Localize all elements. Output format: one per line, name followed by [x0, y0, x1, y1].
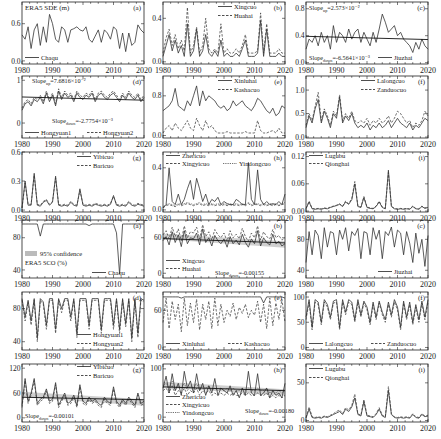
x-tick-label: 1980: [14, 280, 30, 289]
series-hongyuan1: [22, 299, 144, 338]
x-tick-label: 1990: [329, 280, 345, 289]
legend-label: Xingcuo: [234, 3, 256, 10]
series-baricuo: [22, 175, 144, 208]
legend-label: Kashacuo: [244, 340, 270, 347]
x-tick-label: 2010: [106, 66, 122, 75]
plot-frame: [306, 364, 428, 422]
y-tick-label: 60: [154, 233, 162, 242]
x-tick-label: 1990: [329, 424, 345, 433]
y-tick-label: 0.00: [291, 207, 304, 216]
y-tick-label: 0: [17, 413, 21, 422]
legend-label: Zanduocuo: [377, 86, 406, 93]
slope-annotation: Slopedown=-0.00180: [245, 407, 294, 416]
y-tick-label: 100: [150, 364, 162, 373]
x-tick-label: 2010: [106, 280, 122, 289]
series-lalongcuo: [306, 300, 428, 328]
y-tick-label: 0.8: [295, 4, 305, 13]
y-tick-label: 80: [13, 304, 21, 313]
panel-scd-a: 198019902000201020204080(a)Chaqu95% conf…: [13, 220, 152, 289]
x-tick-label: 1980: [298, 352, 314, 361]
x-tick-label: 2010: [106, 140, 122, 149]
y-tick-label: 60: [154, 306, 162, 315]
panel-sde-f: 198019902000201020200.00.51.0(f)Lalongcu…: [295, 76, 436, 149]
y-tick-label: 0.0: [295, 58, 305, 67]
x-tick-label: 2000: [359, 352, 375, 361]
y-tick-label: 1.0: [295, 86, 305, 95]
x-tick-label: 2020: [136, 280, 152, 289]
x-tick-label: 1990: [45, 424, 61, 433]
y-tick-label: 0: [158, 269, 162, 278]
x-tick-label: 2020: [277, 424, 293, 433]
legend-label: Zanduocuo: [387, 340, 416, 347]
y-tick-label: 0.5: [295, 109, 305, 118]
x-tick-label: 1990: [186, 66, 202, 75]
legend-label: Xinluhai: [234, 77, 257, 84]
y-tick-label: 100: [293, 293, 305, 302]
y-tick-label: 0.4: [152, 14, 162, 23]
panel-label: (f): [418, 78, 426, 86]
legend-label: Xinluhai: [182, 340, 205, 347]
panel-label: (d): [133, 294, 142, 302]
confidence-swatch: [25, 251, 37, 256]
y-tick-label: 0.0: [11, 57, 21, 66]
legend-label: Chaqu: [108, 269, 126, 276]
series-kashacuo: [163, 298, 285, 332]
x-tick-label: 1990: [45, 280, 61, 289]
x-tick-label: 2000: [216, 66, 232, 75]
series-jiuzhai: [306, 227, 428, 266]
y-tick-label: 40: [13, 266, 21, 275]
panel-label: (a): [133, 4, 141, 12]
x-tick-label: 2010: [390, 280, 406, 289]
panel-label: (b): [274, 4, 283, 12]
series-jiuzhai: [306, 14, 428, 52]
y-tick-label: 60: [13, 389, 21, 398]
series-qionghai: [306, 387, 428, 418]
series-qionghai: [306, 173, 428, 209]
x-tick-label: 1980: [298, 280, 314, 289]
y-tick-label: 120: [9, 364, 21, 373]
x-tick-label: 2020: [277, 352, 293, 361]
x-tick-label: 2000: [216, 424, 232, 433]
panel-label: (g): [133, 154, 142, 162]
panel-scd-f: 19801990200020102020050100(f)LalongcuoZa…: [293, 292, 436, 361]
x-tick-label: 2000: [359, 424, 375, 433]
y-tick-label: 0.0: [295, 133, 305, 142]
panel-sde-c: 198019902000201020200.00.40.8(c)JiuzhaiS…: [295, 2, 436, 75]
panel-label: (f): [418, 294, 426, 302]
x-tick-label: 2020: [420, 66, 436, 75]
legend-label: Baricuo: [93, 162, 114, 169]
panel-scd-d: 198019902000201020204080(d)Hongyuan1Hong…: [13, 292, 152, 361]
y-tick-label: 0.3: [11, 177, 21, 186]
series-hongyuan1: [22, 91, 144, 110]
legend-label: Hongyuan1: [41, 129, 71, 136]
legend-label: Hongyuan2: [93, 340, 123, 347]
x-tick-label: 2000: [75, 66, 91, 75]
legend-label: Jiuzhai: [394, 268, 413, 275]
legend-label: Xingyicuo: [182, 160, 209, 167]
panel-scd-b: 19801990200020102020060(b)XingcuoHuahaiS…: [154, 220, 293, 289]
slope-annotation: Slopedown=-0.00101: [25, 412, 74, 421]
series-kashacuo: [163, 118, 285, 133]
panel-scd-c: 198019902000201020204080(c)Jiuzhai: [297, 220, 436, 289]
legend-label: Qionghai: [325, 160, 349, 167]
panel-label: (i): [418, 366, 425, 374]
plot-frame: [306, 76, 428, 138]
panel-sde-a: 198019902000201020200.00.6(a)ChaquERA5 S…: [11, 2, 152, 75]
x-tick-label: 2020: [277, 66, 293, 75]
x-tick-label: 2010: [390, 352, 406, 361]
legend-label: Yindongcuo: [182, 409, 214, 416]
x-tick-label: 1990: [186, 280, 202, 289]
panel-scd-e: 19801990200020102020060(e)XinluhaiKashac…: [154, 292, 293, 361]
x-tick-label: 2010: [106, 352, 122, 361]
y-tick-label: 0.4: [152, 163, 162, 172]
legend-label: Xingcuo: [182, 257, 204, 264]
legend-label: Qionghai: [325, 374, 349, 381]
x-tick-label: 2000: [216, 140, 232, 149]
series-chaqu: [22, 224, 144, 274]
legend-label: Lalongcuo: [325, 340, 353, 347]
snow-timeseries-figure: 198019902000201020200.00.6(a)ChaquERA5 S…: [0, 0, 441, 439]
panel-label: (e): [274, 78, 282, 86]
x-tick-label: 1980: [155, 66, 171, 75]
legend-label: Lugubu: [325, 365, 346, 372]
legend-label: Kashacuo: [234, 86, 260, 93]
